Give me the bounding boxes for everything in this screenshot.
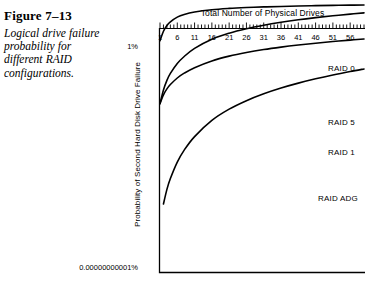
series-curve xyxy=(163,69,364,204)
series-curve xyxy=(160,5,364,41)
figure-number: Figure 7–13 xyxy=(4,8,100,23)
chart-figure: Total Number of Physical Drives Probabil… xyxy=(100,0,365,288)
series-curve xyxy=(160,13,364,104)
series-curves xyxy=(160,5,364,204)
series-label: RAID 0 xyxy=(328,64,355,73)
plot-canvas xyxy=(100,0,365,288)
figure-caption-text: Logical drive failure probability for di… xyxy=(4,27,100,80)
series-label: RAID 1 xyxy=(328,148,355,157)
series-label: RAID 5 xyxy=(328,118,355,127)
series-label: RAID ADG xyxy=(318,194,358,203)
